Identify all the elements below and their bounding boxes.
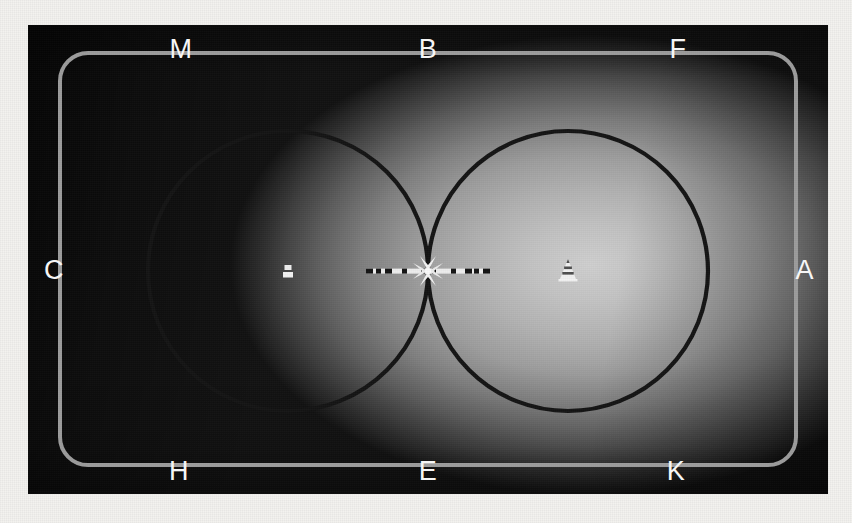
label-bottom-center: E xyxy=(419,458,438,485)
photographic-plate: M B F H E K C A xyxy=(28,25,828,494)
label-bottom-left: H xyxy=(169,458,189,485)
figure-canvas: M B F H E K C A xyxy=(0,0,852,523)
cone-marker-icon xyxy=(559,259,578,281)
pedestal-marker-icon xyxy=(283,265,293,278)
label-left-side: C xyxy=(44,257,64,284)
label-top-center: B xyxy=(419,36,438,63)
geometry-overlay xyxy=(28,25,828,494)
label-top-right: F xyxy=(670,36,687,63)
label-bottom-right: K xyxy=(667,458,686,485)
label-top-left: M xyxy=(170,36,193,63)
label-right-side: A xyxy=(795,257,814,284)
